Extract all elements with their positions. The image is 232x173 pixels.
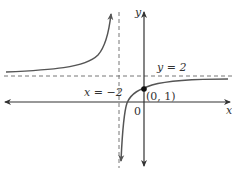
origin-label: 0 — [134, 105, 141, 118]
x-axis-label: x — [226, 104, 232, 117]
y-axis-label: y — [134, 6, 142, 19]
function-graph: y x 0 y = 2 x = −2 (0, 1) — [0, 0, 232, 173]
curve-left-branch — [6, 14, 111, 72]
point-label: (0, 1) — [146, 90, 176, 103]
horizontal-asymptote-label: y = 2 — [156, 61, 186, 74]
vertical-asymptote-label: x = −2 — [84, 86, 123, 99]
